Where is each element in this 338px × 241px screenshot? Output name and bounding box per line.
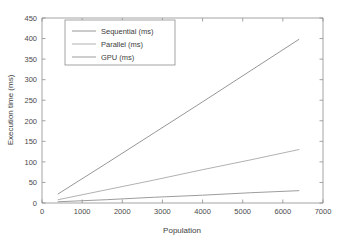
- y-axis-title: Execution time (ms): [6, 74, 15, 145]
- x-tick-label: 5000: [234, 207, 251, 216]
- y-tick-label: 200: [24, 117, 37, 126]
- x-tick-label: 2000: [114, 207, 131, 216]
- y-tick-label: 150: [24, 137, 37, 146]
- y-tick-label: 350: [24, 55, 37, 64]
- x-tick-label: 1000: [74, 207, 91, 216]
- y-tick-label: 300: [24, 75, 37, 84]
- x-tick-label: 7000: [315, 207, 332, 216]
- y-tick-label: 250: [24, 96, 37, 105]
- x-tick-label: 3000: [154, 207, 171, 216]
- figure-container: 050100150200250300350400450 010002000300…: [0, 0, 338, 241]
- y-tick-label: 400: [24, 34, 37, 43]
- legend-label-gpu: GPU (ms): [101, 53, 135, 62]
- chart-canvas: 050100150200250300350400450 010002000300…: [0, 0, 338, 241]
- y-tick-label: 450: [24, 14, 37, 23]
- legend-label-parallel: Parallel (ms): [101, 40, 144, 49]
- y-tick-label: 0: [33, 199, 37, 208]
- x-axis-title: Population: [163, 226, 201, 235]
- legend-label-sequential: Sequential (ms): [101, 27, 154, 36]
- y-tick-label: 50: [29, 178, 37, 187]
- y-tick-label: 100: [24, 158, 37, 167]
- x-tick-label: 4000: [194, 207, 211, 216]
- x-tick-label: 0: [40, 207, 44, 216]
- legend: Sequential (ms) Parallel (ms) GPU (ms): [65, 20, 175, 65]
- x-tick-label: 6000: [275, 207, 292, 216]
